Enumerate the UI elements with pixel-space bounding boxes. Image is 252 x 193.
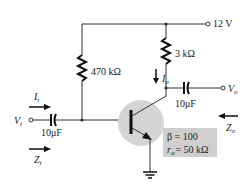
- zo-arrow-icon: [218, 113, 225, 119]
- circuit-diagram: 12 V 470 kΩ 3 kΩ Io Vo 10μF Zo Vi 10μF I…: [0, 0, 252, 193]
- rc-label: 3 kΩ: [175, 48, 195, 59]
- cout-label: 10μF: [175, 98, 196, 109]
- vout-terminal[interactable]: [221, 86, 225, 90]
- io-label: Io: [161, 73, 169, 86]
- zi-label: Zi: [34, 154, 42, 167]
- io-arrow-icon: [153, 78, 159, 84]
- cin-label: 10μF: [41, 127, 62, 138]
- ii-arrow-icon: [44, 104, 51, 110]
- rc-resistor: [162, 38, 170, 64]
- supply-terminal[interactable]: [206, 22, 210, 26]
- vin-terminal[interactable]: [29, 118, 33, 122]
- vout-label: Vo: [228, 83, 238, 96]
- zi-arrow-icon: [44, 146, 51, 152]
- beta-label: β = 100: [167, 131, 198, 142]
- zo-label: Zo: [226, 122, 236, 135]
- vin-label: Vi: [14, 115, 22, 128]
- rb-label: 470 kΩ: [91, 66, 121, 77]
- rb-resistor: [78, 55, 86, 81]
- transistor-body: [118, 100, 164, 146]
- supply-label: 12 V: [213, 18, 233, 29]
- ii-label: Ii: [33, 91, 39, 104]
